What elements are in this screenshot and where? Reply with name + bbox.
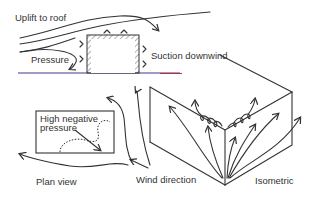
pressure-chevron-1 — [80, 41, 83, 47]
iso-flow-3 — [227, 138, 235, 178]
vortex-right — [228, 99, 255, 127]
wind-direction-pointer — [131, 160, 148, 168]
building-section — [87, 35, 139, 73]
uplift-label: Uplift to roof — [15, 12, 67, 23]
high-negative-label-2: pressure — [40, 122, 77, 133]
wind-direction: Wind direction — [131, 91, 196, 185]
suction-chevron-1 — [143, 46, 146, 52]
pointer-arrow — [75, 130, 100, 150]
wind-direction-label: Wind direction — [136, 174, 196, 185]
suction-label: Suction downwind — [151, 50, 228, 61]
isometric-label: Isometric — [255, 175, 294, 186]
elevation-view: Uplift to roof Pressure Suction downwind — [15, 12, 228, 74]
plan-view-label: Plan view — [36, 176, 77, 187]
pressure-chevron-2 — [80, 56, 83, 62]
vortex-left — [195, 101, 222, 127]
iso-flow-1 — [170, 107, 222, 178]
suction-chevron-2 — [143, 61, 146, 67]
iso-box-back — [220, 55, 292, 92]
plan-view: High negative pressure Plan view — [20, 98, 132, 187]
wind-load-diagram: Uplift to roof Pressure Suction downwind… — [0, 0, 315, 199]
plan-flow-arrow-up — [108, 98, 132, 162]
uplift-chevron-1 — [104, 30, 110, 33]
uplift-chevron-2 — [121, 30, 127, 33]
pressure-label: Pressure — [31, 54, 69, 65]
isometric-view: Isometric — [150, 55, 300, 186]
plan-flow-arrow-left — [20, 154, 128, 167]
wind-direction-arrow — [136, 91, 150, 165]
